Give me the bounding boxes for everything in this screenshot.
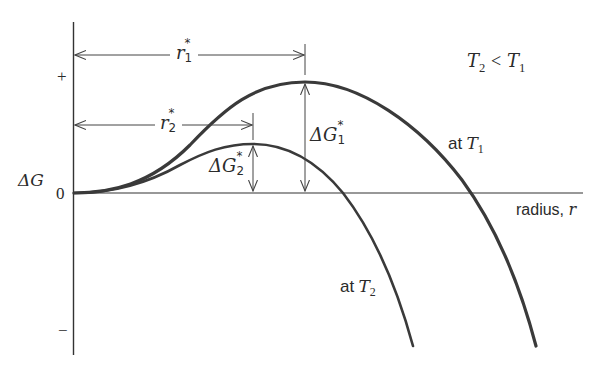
curve-label-t1-var: T [466,133,477,153]
r1-sub: 1 [185,53,193,65]
condition-op: < [491,51,501,71]
r2-critical-label: r*2 [160,114,169,132]
dg1-critical-label: ΔG*1 [310,126,337,144]
curve-label-t1: at T1 [448,135,484,152]
condition-lhs: T [467,50,479,71]
condition-rhs: T [507,50,519,71]
r1-sup: * [185,38,191,50]
x-axis-label-var: r [568,200,576,219]
dg2-sub: 2 [236,166,244,178]
curve-label-t2: at T2 [340,278,376,295]
r2-var: r [160,112,169,133]
y-tick-plus: + [57,68,67,85]
x-axis-label: radius, r [516,202,576,218]
condition-label: T2 < T1 [467,52,525,70]
r1-var: r [176,42,185,63]
curve-label-t1-sub: 1 [478,142,484,156]
dg2-var: ΔG [209,155,236,176]
curve-label-t2-sub: 2 [370,285,376,299]
y-tick-minus: − [58,322,68,339]
y-tick-zero: 0 [56,185,65,202]
dg1-var: ΔG [310,124,337,145]
r2-sup: * [169,108,175,120]
curve-label-t1-prefix: at [448,134,462,153]
curve-label-t2-var: T [358,276,369,296]
r1-critical-label: r*1 [176,44,185,62]
condition-rhs-sub: 1 [519,61,525,75]
dg2-sup: * [236,151,242,163]
dg1-sub: 1 [337,135,345,147]
dg1-sup: * [337,120,343,132]
y-axis-label: ΔG [18,172,44,189]
r2-sub: 2 [169,123,177,135]
curve-label-t2-prefix: at [340,277,354,296]
condition-lhs-sub: 2 [479,61,485,75]
x-axis-label-text: radius, [516,201,564,218]
dg2-critical-label: ΔG*2 [209,157,236,175]
